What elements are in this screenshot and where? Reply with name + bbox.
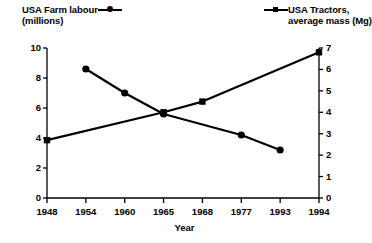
y-axis-right-tick-label: 7: [326, 42, 348, 53]
y-axis-left-tick-label: 2: [19, 162, 41, 173]
y-axis-left-tick-label: 0: [19, 192, 41, 203]
data-point-square: [316, 49, 322, 55]
y-axis-right-tick-label: 3: [326, 128, 348, 139]
x-axis-tick-label: 1948: [27, 206, 67, 217]
data-point-square: [44, 137, 50, 143]
data-point-circle: [238, 131, 245, 138]
y-axis-right-tick-label: 1: [326, 171, 348, 182]
data-point-circle: [277, 146, 284, 153]
y-axis-right-tick-label: 4: [326, 106, 348, 117]
y-axis-left-tick-label: 10: [19, 42, 41, 53]
x-axis-tick-label: 1965: [144, 206, 184, 217]
y-axis-left-tick-label: 6: [19, 102, 41, 113]
data-point-square: [160, 109, 166, 115]
y-axis-right-tick-label: 2: [326, 149, 348, 160]
data-point-square: [199, 98, 205, 104]
x-axis-tick-label: 1993: [260, 206, 300, 217]
x-axis-tick-label: 1954: [66, 206, 106, 217]
y-axis-left-tick-label: 4: [19, 132, 41, 143]
x-axis-tick-label: 1977: [221, 206, 261, 217]
y-axis-left-tick-label: 8: [19, 72, 41, 83]
series-line-1: [47, 52, 319, 140]
data-point-circle: [82, 65, 89, 72]
x-axis-tick-label: 1968: [182, 206, 222, 217]
y-axis-right-tick-label: 6: [326, 63, 348, 74]
x-axis-tick-label: 1960: [105, 206, 145, 217]
y-axis-right-tick-label: 0: [326, 192, 348, 203]
data-series: [44, 49, 322, 154]
y-axis-right-tick-label: 5: [326, 85, 348, 96]
data-point-circle: [121, 89, 128, 96]
x-axis-tick-label: 1994: [299, 206, 339, 217]
x-axis-title: Year: [0, 222, 369, 233]
